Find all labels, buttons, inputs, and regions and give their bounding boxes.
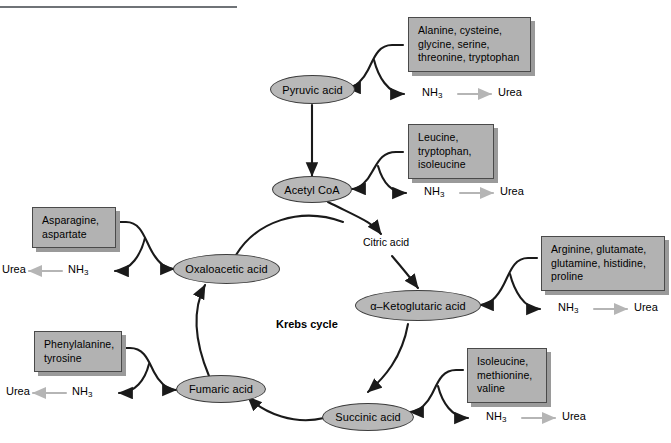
arrow-branch-nh3-pyruvic — [374, 60, 404, 94]
urea-label-pyruvic: Urea — [498, 86, 522, 98]
amino-acid-box-pyruvic[interactable]: Alanine, cysteine, glycine, serine, thre… — [408, 17, 531, 72]
ammonia-subscript: 3 — [438, 91, 442, 100]
ammonia-label-acetyl: NH3 — [424, 185, 444, 197]
box-line: Asparagine, — [42, 214, 107, 228]
ammonia-text: NH — [72, 385, 88, 397]
krebs-cycle-diagram: Pyruvic acid Acetyl CoA Oxaloacetic acid… — [0, 0, 671, 443]
arrow-box-to-ketoglutaric — [480, 258, 537, 305]
node-oxaloacetic-acid[interactable]: Oxaloacetic acid — [173, 254, 280, 284]
arrow-branch-nh3-oxaloacetic — [115, 238, 145, 271]
ammonia-label-oxaloacetic: NH3 — [68, 263, 88, 275]
ammonia-label-fumaric: NH3 — [72, 385, 92, 397]
ammonia-subscript: 3 — [574, 306, 578, 315]
arrow-branch-nh3-succinic — [438, 386, 468, 418]
box-line: glycine, serine, — [418, 38, 522, 52]
ammonia-label-ketoglutaric: NH3 — [558, 301, 578, 313]
box-line: Phenylalanine, — [44, 338, 113, 352]
urea-label-acetyl: Urea — [500, 185, 524, 197]
ammonia-text: NH — [558, 301, 574, 313]
arrow-oxaloacetic-to-citric — [236, 216, 343, 255]
ammonia-subscript: 3 — [440, 190, 444, 199]
box-line: isoleucine — [418, 158, 485, 172]
arrow-fumaric-to-oxaloacetic — [196, 285, 209, 376]
box-line: tyrosine — [44, 352, 113, 366]
node-label: Succinic acid — [335, 411, 401, 423]
node-label: Acetyl CoA — [284, 184, 339, 196]
node-label: Fumaric acid — [189, 383, 253, 395]
node-alpha-ketoglutaric-acid[interactable]: α–Ketoglutaric acid — [355, 290, 481, 321]
box-line: threonine, tryptophan — [418, 51, 522, 65]
urea-label-succinic: Urea — [562, 410, 586, 422]
node-pyruvic-acid[interactable]: Pyruvic acid — [270, 75, 355, 104]
amino-acid-box-fumaric[interactable]: Phenylalanine, tyrosine — [34, 331, 122, 372]
box-line: Leucine, — [418, 131, 485, 145]
ammonia-subscript: 3 — [84, 268, 88, 277]
node-acetyl-coa[interactable]: Acetyl CoA — [272, 176, 352, 203]
arrow-acetyl-to-citric — [328, 202, 381, 234]
box-line: aspartate — [42, 228, 107, 242]
box-line: tryptophan, — [418, 145, 485, 159]
krebs-cycle-title: Krebs cycle — [276, 318, 338, 330]
amino-acid-box-acetyl[interactable]: Leucine, tryptophan, isoleucine — [408, 124, 494, 179]
arrow-succinic-to-fumaric — [248, 397, 324, 420]
ammonia-label-succinic: NH3 — [486, 410, 506, 422]
arrow-branch-nh3-acetyl — [378, 166, 406, 193]
arrow-box-to-acetyl — [352, 152, 403, 189]
box-line: glutamine, histidine, — [551, 257, 656, 271]
amino-acid-box-oxaloacetic[interactable]: Asparagine, aspartate — [32, 207, 116, 248]
ammonia-subscript: 3 — [502, 415, 506, 424]
ammonia-text: NH — [486, 410, 502, 422]
ammonia-label-pyruvic: NH3 — [422, 86, 442, 98]
arrow-branch-nh3-fumaric — [119, 364, 149, 393]
urea-label-oxaloacetic: Urea — [2, 263, 26, 275]
box-line: valine — [477, 382, 538, 396]
label-citric-acid: Citric acid — [363, 236, 409, 248]
arrow-box-to-oxaloacetic — [118, 222, 174, 269]
arrow-branch-nh3-ketoglutaric — [510, 274, 540, 309]
arrow-box-to-fumaric — [122, 348, 176, 390]
arrow-ketoglutaric-to-succinic — [368, 324, 408, 392]
box-line: proline — [551, 270, 656, 284]
node-label: α–Ketoglutaric acid — [370, 300, 466, 312]
ammonia-subscript: 3 — [88, 390, 92, 399]
box-line: Alanine, cysteine, — [418, 24, 522, 38]
box-line: Arginine, glutamate, — [551, 243, 656, 257]
amino-acid-box-succinic[interactable]: Isoleucine, methionine, valine — [467, 348, 547, 403]
arrow-citric-to-ketoglutaric — [392, 256, 418, 288]
arrow-box-to-succinic — [410, 370, 463, 412]
box-line: Isoleucine, — [477, 355, 538, 369]
urea-label-fumaric: Urea — [6, 385, 30, 397]
urea-label-ketoglutaric: Urea — [634, 301, 658, 313]
amino-acid-box-ketoglutaric[interactable]: Arginine, glutamate, glutamine, histidin… — [541, 236, 665, 291]
node-succinic-acid[interactable]: Succinic acid — [322, 403, 414, 431]
ammonia-text: NH — [424, 185, 440, 197]
box-line: methionine, — [477, 369, 538, 383]
ammonia-text: NH — [68, 263, 84, 275]
node-fumaric-acid[interactable]: Fumaric acid — [176, 375, 266, 403]
ammonia-text: NH — [422, 86, 438, 98]
node-label: Oxaloacetic acid — [185, 263, 267, 275]
node-label: Pyruvic acid — [282, 84, 343, 96]
